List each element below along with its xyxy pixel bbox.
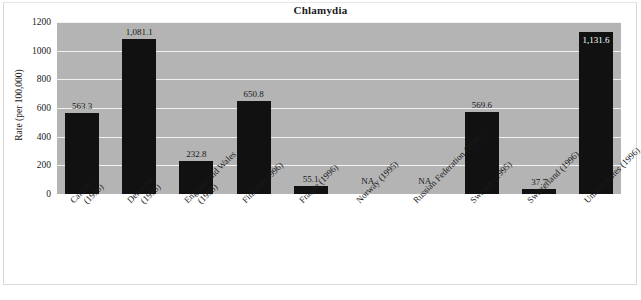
y-tick-label: 1000	[32, 46, 51, 56]
bar-value-label: 569.6	[472, 100, 492, 110]
chart-title: Chlamydia	[0, 4, 641, 16]
chart-figure: Chlamydia Rate (per 100,000) 12001000800…	[0, 0, 641, 300]
x-axis-tick-labels: Canada(1996)Denmark(1996)England and Wal…	[0, 196, 641, 296]
y-tick-label: 800	[37, 74, 51, 84]
bar-value-label: 563.3	[72, 101, 92, 111]
bar	[579, 32, 613, 194]
bar-value-label: 1,131.6	[583, 35, 610, 45]
y-tick-label: 1200	[32, 17, 51, 27]
bar-value-label: 1,081.1	[126, 27, 153, 37]
y-tick-label: 200	[37, 160, 51, 170]
bar	[122, 39, 156, 194]
y-tick-label: 600	[37, 103, 51, 113]
y-tick-label: 400	[37, 132, 51, 142]
gridline	[57, 22, 621, 23]
bar-value-label: 232.8	[186, 149, 206, 159]
bar-value-label: 650.8	[243, 89, 263, 99]
y-axis-tick-labels: 120010008006004002000	[0, 22, 54, 194]
